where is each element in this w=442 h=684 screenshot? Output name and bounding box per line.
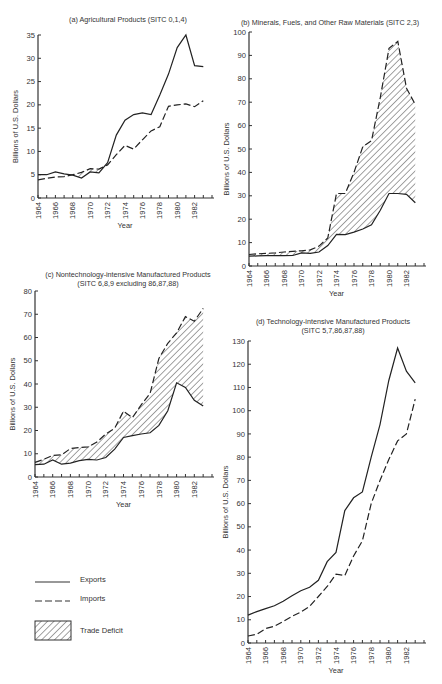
x-tick-label: 1980: [172, 481, 181, 498]
y-tick-label: 50: [238, 145, 246, 154]
chart-nontech-manufactured: (c) Nontechnology-intensive Manufactured…: [8, 270, 214, 509]
y-tick-label: 25: [27, 77, 35, 86]
x-tick-label: 1968: [68, 202, 77, 219]
x-tick-label: 1980: [173, 202, 182, 219]
x-tick-label: 1964: [34, 202, 43, 219]
x-axis-label: Year: [329, 666, 344, 675]
y-tick-label: 60: [237, 499, 245, 508]
x-tick-label: 1982: [402, 647, 411, 664]
chart-tech-manufactured: (d) Technology-intensive Manufactured Pr…: [221, 317, 426, 675]
y-tick-label: 130: [232, 337, 245, 346]
y-axis-label: Billions of U.S. Dollars: [222, 122, 231, 195]
y-tick-label: 70: [238, 98, 246, 107]
x-tick-label: 1966: [48, 481, 57, 498]
y-tick-label: 35: [27, 31, 35, 40]
x-tick-label: 1980: [384, 647, 393, 664]
y-tick-label: 30: [24, 403, 32, 412]
exports-line: [248, 348, 415, 615]
y-tick-label: 80: [24, 287, 32, 296]
y-tick-label: 20: [237, 592, 245, 601]
x-axis-label: Year: [118, 221, 133, 230]
x-tick-label: 1968: [66, 481, 75, 498]
y-tick-label: 40: [24, 380, 32, 389]
x-tick-label: 1968: [280, 270, 289, 287]
y-tick-label: 20: [27, 100, 35, 109]
y-tick-label: 10: [237, 615, 245, 624]
y-tick-label: 20: [238, 215, 246, 224]
x-tick-label: 1976: [137, 481, 146, 498]
y-tick-label: 20: [24, 426, 32, 435]
chart-agricultural-products: (a) Agricultural Products (SITC 0,1,4)05…: [11, 15, 214, 230]
x-tick-label: 1970: [86, 202, 95, 219]
y-tick-label: 40: [237, 546, 245, 555]
x-tick-label: 1974: [332, 647, 341, 664]
y-axis-label: Billions of U.S. Dollars: [221, 465, 230, 538]
chart-subtitle: (SITC 6,8,9 excluding 86,87,88): [77, 279, 178, 288]
x-tick-label: 1982: [190, 202, 199, 219]
exports-line: [38, 35, 203, 178]
y-tick-label: 100: [232, 406, 245, 415]
x-tick-label: 1974: [332, 270, 341, 287]
trade-deficit-area: [38, 35, 203, 178]
x-tick-label: 1978: [155, 202, 164, 219]
chart-title: (d) Technology-intensive Manufactured Pr…: [256, 317, 410, 326]
trade-deficit-area: [249, 41, 415, 256]
x-tick-label: 1972: [314, 647, 323, 664]
x-tick-label: 1966: [51, 202, 60, 219]
x-tick-label: 1968: [279, 647, 288, 664]
trade-deficit-area: [35, 308, 203, 464]
x-tick-label: 1974: [121, 202, 130, 219]
y-tick-label: 30: [27, 54, 35, 63]
x-tick-label: 1980: [385, 270, 394, 287]
chart-minerals-fuels: (b) Minerals, Fuels, and Other Raw Mater…: [222, 18, 426, 298]
y-tick-label: 60: [238, 121, 246, 130]
y-axis-label: Billions of U.S. Dollars: [8, 357, 17, 430]
x-tick-label: 1978: [367, 647, 376, 664]
y-tick-label: 70: [237, 476, 245, 485]
x-tick-label: 1978: [155, 481, 164, 498]
y-tick-label: 60: [24, 333, 32, 342]
x-tick-label: 1964: [245, 270, 254, 287]
legend: [35, 582, 71, 640]
x-axis-label: Year: [329, 289, 344, 298]
x-tick-label: 1966: [262, 270, 271, 287]
x-tick-label: 1974: [119, 481, 128, 498]
chart-title: (c) Nontechnology-intensive Manufactured…: [45, 270, 211, 279]
y-tick-label: 70: [24, 310, 32, 319]
x-axis-label: Year: [116, 500, 131, 509]
x-tick-label: 1964: [31, 481, 40, 498]
y-tick-label: 0: [31, 194, 35, 203]
x-tick-label: 1970: [84, 481, 93, 498]
x-tick-label: 1972: [101, 481, 110, 498]
y-tick-label: 10: [27, 147, 35, 156]
y-tick-label: 5: [31, 170, 35, 179]
y-tick-label: 0: [241, 639, 245, 648]
x-tick-label: 1978: [367, 270, 376, 287]
legend-deficit-swatch: [35, 621, 71, 640]
x-tick-label: 1970: [297, 270, 306, 287]
legend-deficit-label: Trade Deficit: [80, 626, 123, 635]
y-tick-label: 0: [242, 262, 246, 271]
x-tick-label: 1976: [349, 647, 358, 664]
y-tick-label: 30: [238, 191, 246, 200]
y-tick-label: 50: [24, 356, 32, 365]
x-tick-label: 1970: [296, 647, 305, 664]
imports-line: [38, 101, 203, 180]
chart-subtitle: (SITC 5,7,86,87,88): [301, 326, 364, 335]
y-axis-label: Billions of U.S. Dollars: [11, 90, 20, 163]
y-tick-label: 80: [237, 453, 245, 462]
x-tick-label: 1982: [402, 270, 411, 287]
x-tick-label: 1966: [261, 647, 270, 664]
y-tick-label: 10: [238, 238, 246, 247]
y-tick-label: 40: [238, 168, 246, 177]
x-tick-label: 1972: [103, 202, 112, 219]
y-tick-label: 90: [238, 51, 246, 60]
y-tick-label: 50: [237, 522, 245, 531]
legend-exports-label: Exports: [80, 575, 106, 584]
x-tick-label: 1964: [244, 647, 253, 664]
y-tick-label: 100: [233, 28, 246, 37]
x-tick-label: 1976: [350, 270, 359, 287]
y-tick-label: 0: [28, 473, 32, 482]
y-tick-label: 10: [24, 449, 32, 458]
y-tick-label: 30: [237, 569, 245, 578]
